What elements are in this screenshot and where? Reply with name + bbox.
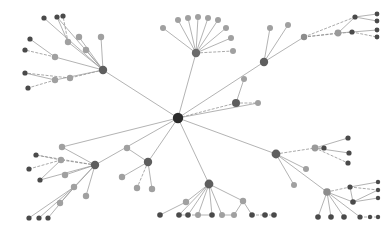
graph-node[interactable] [349,29,354,34]
graph-node[interactable] [375,35,380,40]
graph-node[interactable] [22,70,27,75]
graph-node[interactable] [59,144,65,150]
graph-node[interactable] [25,85,30,90]
graph-node[interactable] [375,19,380,24]
graph-node[interactable] [134,185,140,191]
graph-node[interactable] [27,36,32,41]
graph-node[interactable] [175,17,181,23]
graph-node[interactable] [124,145,130,151]
graph-node[interactable] [99,66,107,74]
graph-node[interactable] [205,180,214,189]
graph-node[interactable] [160,25,166,31]
graph-node[interactable] [271,212,277,218]
graph-node[interactable] [262,212,268,218]
graph-node[interactable] [315,214,321,220]
graph-node[interactable] [67,75,73,81]
graph-node[interactable] [157,212,163,218]
graph-node[interactable] [144,158,152,166]
graph-node[interactable] [119,174,125,180]
graph-node[interactable] [335,30,342,37]
graph-node[interactable] [58,157,64,163]
graph-node[interactable] [37,177,42,182]
graph-node[interactable] [347,184,352,189]
graph-node[interactable] [60,13,65,18]
graph-node[interactable] [223,25,229,31]
graph-node[interactable] [346,150,351,155]
graph-node[interactable] [76,34,82,40]
graph-node[interactable] [241,76,247,82]
graph-node[interactable] [98,34,104,40]
graph-node[interactable] [272,150,281,159]
graph-node[interactable] [57,200,63,206]
graph-node[interactable] [345,160,350,165]
graph-node[interactable] [52,54,58,60]
graph-node[interactable] [45,215,50,220]
graph-node[interactable] [215,17,221,23]
graph-node[interactable] [376,188,380,192]
graph-node[interactable] [376,196,380,200]
graph-node[interactable] [285,22,291,28]
graph-node[interactable] [328,214,334,220]
graph-node[interactable] [352,14,357,19]
graph-node[interactable] [228,35,234,41]
graph-node[interactable] [249,212,255,218]
graph-node[interactable] [183,199,189,205]
graph-node[interactable] [52,77,58,83]
graph-node[interactable] [33,152,38,157]
graph-node[interactable] [345,135,350,140]
graph-node[interactable] [185,15,191,21]
graph-node[interactable] [230,48,236,54]
graph-node[interactable] [36,215,41,220]
graph-node[interactable] [26,215,31,220]
graph-node[interactable] [149,186,155,192]
graph-node[interactable] [54,14,59,19]
graph-node[interactable] [260,58,268,66]
graph-node[interactable] [301,34,307,40]
graph-node[interactable] [303,166,309,172]
graph-node[interactable] [231,212,237,218]
graph-node[interactable] [357,214,362,219]
graph-node[interactable] [205,15,211,21]
graph-node[interactable] [185,212,191,218]
graph-node[interactable] [321,145,326,150]
graph-node[interactable] [62,172,68,178]
graph-node[interactable] [173,113,183,123]
graph-node[interactable] [375,28,380,33]
graph-node[interactable] [240,198,246,204]
graph-node[interactable] [195,212,201,218]
graph-node[interactable] [22,47,27,52]
graph-node[interactable] [368,215,372,219]
graph-node[interactable] [375,12,380,17]
graph-node[interactable] [83,193,89,199]
graph-node[interactable] [291,182,297,188]
graph-node[interactable] [192,49,200,57]
graph-node[interactable] [176,212,182,218]
graph-node[interactable] [232,99,240,107]
graph-node[interactable] [312,145,319,152]
graph-node[interactable] [219,212,225,218]
graph-node[interactable] [83,47,89,53]
graph-node[interactable] [376,215,380,219]
graph-node[interactable] [71,184,77,190]
graph-node[interactable] [350,199,356,205]
network-graph-canvas [0,0,387,235]
graph-node[interactable] [41,15,46,20]
graph-node[interactable] [267,25,273,31]
graph-node[interactable] [323,188,331,196]
network-graph-svg [0,0,387,235]
graph-node[interactable] [341,214,347,220]
graph-node[interactable] [195,14,201,20]
graph-node[interactable] [376,180,380,184]
graph-node[interactable] [209,212,215,218]
graph-node[interactable] [65,39,71,45]
graph-node[interactable] [255,100,261,106]
graph-node[interactable] [91,161,99,169]
graph-node[interactable] [26,166,31,171]
